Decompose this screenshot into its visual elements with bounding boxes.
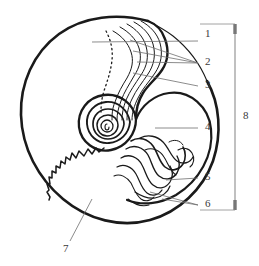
- outer-shell-wall: [21, 17, 219, 223]
- protoconch-spiral: [79, 95, 136, 151]
- shell-drawing: [0, 0, 259, 266]
- callout-label-3: 3: [205, 79, 211, 90]
- callout-label-8: 8: [243, 110, 249, 121]
- septal-lobes: [114, 136, 194, 206]
- callout-label-7: 7: [63, 243, 69, 254]
- ammonite-shell-figure: 1 2 3 4 5 6 7 8: [0, 0, 259, 266]
- callout-label-1: 1: [205, 28, 211, 39]
- callout-label-4: 4: [205, 121, 211, 132]
- leader-3: [133, 73, 198, 86]
- callout-label-5: 5: [205, 171, 211, 182]
- dotted-interior-line: [101, 31, 112, 112]
- callout-label-6: 6: [205, 198, 211, 209]
- leader-1: [92, 41, 198, 42]
- callout-label-2: 2: [205, 56, 211, 67]
- leader-lines: [70, 40, 198, 241]
